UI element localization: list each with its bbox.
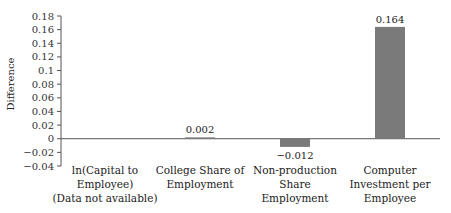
bar-value-label: −0.012 xyxy=(276,150,313,161)
y-tick-label: 0.12 xyxy=(32,51,54,62)
category-label: Computer xyxy=(363,164,417,176)
category-label: College Share of xyxy=(156,164,246,176)
bar xyxy=(185,137,215,139)
y-tick-label: 0.06 xyxy=(32,92,54,103)
y-tick-label: −0.04 xyxy=(23,161,54,172)
y-axis-label: Difference xyxy=(5,57,16,110)
bar-chart: Difference 0.180.160.140.120.10.080.060.… xyxy=(0,0,451,213)
y-tick-label: 0.08 xyxy=(32,79,54,90)
category-label: Non-production xyxy=(253,164,337,176)
y-tick-label: −0.02 xyxy=(23,147,54,158)
category-label: Employee) xyxy=(77,178,133,190)
category-label: Investment per xyxy=(349,178,431,190)
category-label: Share xyxy=(279,178,310,190)
y-tick-label: 0.1 xyxy=(38,65,54,76)
category-label: Employment xyxy=(261,192,329,204)
y-tick-label: 0 xyxy=(48,133,54,144)
category-label: (Data not available) xyxy=(52,192,157,204)
y-tick-label: 0.18 xyxy=(32,11,54,22)
category-labels: ln(Capital toEmployee)(Data not availabl… xyxy=(52,164,431,204)
bar-value-label: 0.002 xyxy=(186,124,215,135)
y-tick-label: 0.14 xyxy=(32,38,54,49)
y-tick-label: 0.04 xyxy=(32,106,54,117)
category-label: Employee xyxy=(364,192,416,204)
bar xyxy=(280,139,310,147)
y-tick-label: 0.02 xyxy=(32,120,54,131)
bar xyxy=(375,27,405,139)
y-tick-label: 0.16 xyxy=(32,24,54,35)
category-label: Employment xyxy=(166,178,234,190)
category-label: ln(Capital to xyxy=(72,164,138,176)
bar-value-label: 0.164 xyxy=(376,14,405,25)
